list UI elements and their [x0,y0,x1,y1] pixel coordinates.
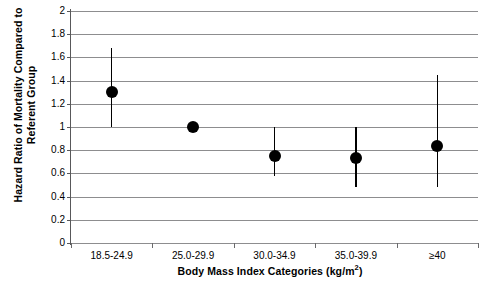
gridline [71,34,478,35]
y-axis-tick [67,127,71,128]
gridline [71,243,478,244]
x-axis-title: Body Mass Index Categories (kg/m2) [60,263,480,277]
y-axis-tick [67,220,71,221]
data-point-marker [269,150,281,162]
y-axis-tick [67,197,71,198]
y-axis-tick-label: 0.8 [33,145,65,155]
y-axis-tick [67,81,71,82]
x-axis-tick [152,243,153,248]
y-axis-tick-label: 1.8 [33,29,65,39]
y-axis-tick [67,34,71,35]
y-axis-tick [67,104,71,105]
x-axis-tick-label: 18.5-24.9 [71,250,152,261]
x-axis-tick [71,243,72,248]
x-axis-tick [234,243,235,248]
gridline [71,197,478,198]
y-axis-tick-label: 1.4 [33,76,65,86]
x-axis-tick-label: 30.0-34.9 [234,250,315,261]
hazard-ratio-chart: Hazard Ratio of Mortality Compared to Re… [0,0,495,285]
x-axis-tick-label: 35.0-39.9 [315,250,396,261]
y-axis-tick [67,11,71,12]
y-axis-tick-label: 1.6 [33,52,65,62]
x-axis-title-main: Body Mass Index Categories (kg/m [178,265,355,277]
data-point-marker [106,86,118,98]
gridline [71,104,478,105]
error-bar [437,75,438,188]
x-axis-tick-label: 25.0-29.9 [152,250,233,261]
y-axis-tick-label: 0.4 [33,192,65,202]
y-axis-tick-label: 1.2 [33,99,65,109]
y-axis-tick-label: 0.6 [33,168,65,178]
y-axis-tick [67,150,71,151]
gridline [71,11,478,12]
y-axis-tick-label: 0 [33,238,65,248]
x-axis-tick [315,243,316,248]
y-axis-tick-label: 1 [33,122,65,132]
y-axis-tick-label: 2 [33,6,65,16]
y-axis-tick-label: 0.2 [33,215,65,225]
x-axis-tick [478,243,479,248]
y-axis-title-line1: Hazard Ratio of Mortality Compared to [12,7,24,202]
x-axis-tick-label: ≥40 [397,250,478,261]
data-point-marker [187,121,199,133]
data-point-marker [350,152,362,164]
y-axis-tick [67,173,71,174]
plot-area: 00.20.40.60.811.21.41.61.82 [71,11,478,243]
data-point-marker [431,140,443,152]
x-axis-title-tail: ) [359,265,363,277]
gridline [71,220,478,221]
y-axis-tick [67,57,71,58]
gridline [71,57,478,58]
x-axis-tick [397,243,398,248]
gridline [71,81,478,82]
